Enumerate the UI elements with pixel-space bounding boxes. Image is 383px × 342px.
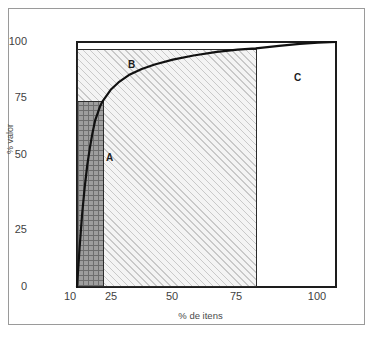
y-axis-title: % valor xyxy=(5,124,15,154)
x-tick-label: 25 xyxy=(91,290,131,302)
y-tick-label: 25 xyxy=(0,223,27,235)
x-tick-label: 10 xyxy=(50,290,90,302)
x-tick-label: 100 xyxy=(297,290,337,302)
x-tick-label: 50 xyxy=(152,290,192,302)
x-tick-label: 75 xyxy=(216,290,256,302)
plot-area: A B C xyxy=(77,42,336,287)
y-tick-label: 0 xyxy=(0,280,27,292)
x-axis-title: % de itens xyxy=(9,310,383,321)
y-tick-label: 100 xyxy=(0,35,27,47)
figure-frame: 100 75 50 25 0 10 25 50 75 100 % valor %… xyxy=(8,8,365,325)
y-tick-label: 75 xyxy=(0,91,27,103)
pareto-curve xyxy=(77,42,336,287)
